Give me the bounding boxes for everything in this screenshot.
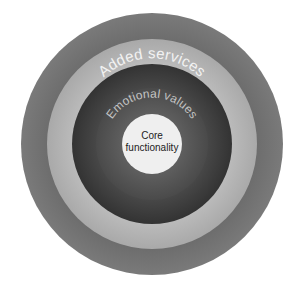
core-label-line1: Core xyxy=(141,130,163,141)
diagram-svg: Added services Emotional values Core fun… xyxy=(0,0,298,288)
product-layers-diagram: Added services Emotional values Core fun… xyxy=(0,0,298,288)
core-label-line2: functionality xyxy=(126,142,179,153)
